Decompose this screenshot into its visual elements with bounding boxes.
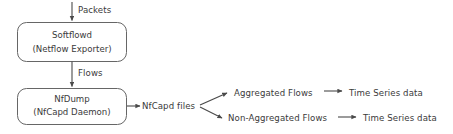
text-node-non-aggregated-flows: Non-Aggregated Flows — [228, 112, 327, 124]
text-node-aggregated-flows: Aggregated Flows — [234, 87, 313, 99]
edge-fork-lower-arrow — [200, 107, 222, 118]
text-node-time-series-data-top: Time Series data — [349, 87, 423, 99]
edge-label-packets: Packets — [78, 5, 111, 16]
edge-fork-upper-arrow — [200, 93, 227, 105]
text-node-nfcapd-files: NfCapd files — [142, 100, 195, 112]
node-nfdump-line2: (NfCapd Daemon) — [17, 106, 127, 119]
node-softflowd-line2: (Netflow Exporter) — [17, 43, 127, 56]
node-nfdump-line1: NfDump — [17, 93, 127, 106]
text-node-time-series-data-bottom: Time Series data — [363, 112, 437, 124]
node-softflowd-line1: Softflowd — [17, 29, 127, 42]
edge-label-flows: Flows — [78, 68, 103, 79]
diagram-canvas: Softflowd (Netflow Exporter) NfDump (NfC… — [0, 0, 453, 134]
